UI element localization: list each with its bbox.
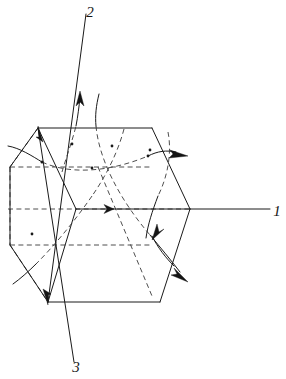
technical-diagram: 1 2 3 <box>0 0 286 379</box>
flow-axis3-right-dot <box>149 149 152 152</box>
axis-2-group <box>48 14 86 302</box>
figure-canvas: 1 2 3 <box>0 0 286 379</box>
flow-arrow-axis1-upper <box>8 146 188 170</box>
flow-axis2-through-solid-top <box>96 94 99 126</box>
axis-label-2: 2 <box>86 4 94 20</box>
flow-axis2-through-arrowhead <box>171 268 188 282</box>
flow-axis2-up-dot <box>71 143 74 146</box>
flow-axis1-upper-lead <box>8 146 42 162</box>
box-hidden-edge-back-right-diagonal <box>98 167 152 296</box>
flow-axis3-left-hidden-upper <box>92 129 124 196</box>
flow-axis3-left-dot-1 <box>111 145 114 148</box>
flow-axis1-upper-dot-3 <box>147 155 150 158</box>
box-hidden-edges <box>10 128 152 302</box>
flow-axis2-up-hidden <box>62 126 76 172</box>
axis-label-1: 1 <box>273 203 281 219</box>
flow-axis3-left-hidden-lower <box>36 196 92 264</box>
flow-axis3-right-hidden <box>158 132 170 196</box>
flow-axis1-upper-dot-1 <box>41 161 44 164</box>
flow-arrow-axis2-up <box>62 91 84 172</box>
flow-axis1-upper-arrowhead <box>169 150 188 158</box>
axis-label-3: 3 <box>71 359 80 375</box>
flow-arrow-axis2-through <box>96 94 188 282</box>
flow-axis2-up-arrowhead <box>76 91 84 106</box>
flow-axis1-upper-sweep <box>42 156 148 170</box>
box-visible-edges <box>10 128 190 302</box>
box-edge-top-left <box>38 128 76 209</box>
box-edge-silhouette-lower-left <box>10 245 48 302</box>
flow-secondary-right-arrowhead <box>152 224 164 240</box>
flow-arrow-axis3-right <box>146 132 170 238</box>
axis-2-line <box>48 14 86 302</box>
flow-axis1-upper-dot-2 <box>91 167 94 170</box>
flow-axis3-left-dot-2 <box>31 233 34 236</box>
flow-axis2-through-hidden <box>96 126 150 235</box>
